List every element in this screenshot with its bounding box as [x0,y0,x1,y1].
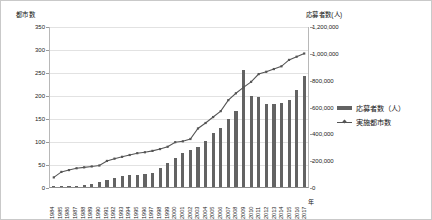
legend-label-line: 実施都市数 [356,117,391,127]
x-tick-label: 1999 [165,189,171,219]
bar-slot [217,27,225,187]
left-tick-label: 0 [1,185,45,191]
bar [174,158,177,187]
bar [257,97,260,187]
bar [265,104,268,187]
x-tick-label: 2006 [218,189,224,219]
x-tick-label: 2004 [203,189,209,219]
right-tick-mark [310,108,313,109]
right-tick-mark [310,134,313,135]
x-tick-label: 2005 [210,189,216,219]
bar [280,103,283,187]
bar-slot [225,27,233,187]
bar-slot [240,27,248,187]
bar [181,153,184,187]
bar-slot [232,27,240,187]
left-axis-title: 都市数 [16,10,35,19]
legend-item-bar: 応募者数（人） [337,103,405,113]
right-tick-label: 200,000 [312,158,372,164]
left-tick-label: 300 [1,47,45,53]
bar-slot [126,27,134,187]
bar-slot [111,27,119,187]
x-tick-slot: 2016 [294,189,302,219]
right-axis-title: 応募者数(人) [306,10,342,19]
x-tick-label: 2010 [249,189,255,219]
bar-slot [65,27,73,187]
left-tick-label: 200 [1,93,45,99]
right-tick-label: 1,000,000 [312,51,372,57]
x-tick-slot: 2003 [194,189,202,219]
bar-slot [88,27,96,187]
bar-series [50,27,308,187]
x-tick-slot: 2001 [179,189,187,219]
x-tick-slot: 1995 [133,189,141,219]
bar [204,141,207,187]
x-tick-label: 1988 [81,189,87,219]
x-tick-label: 2014 [279,189,285,219]
bar-slot [141,27,149,187]
right-tick-label: 400,000 [312,131,372,137]
left-tick-label: 50 [1,162,45,168]
legend-bar-swatch-icon [337,106,352,110]
x-tick-label: 1992 [111,189,117,219]
bar [121,176,124,187]
bar [105,180,108,187]
x-tick-label: 1984 [50,189,56,219]
x-tick-label: 2009 [241,189,247,219]
x-tick-slot: 2012 [263,189,271,219]
x-tick-label: 2000 [172,189,178,219]
bar [227,119,230,187]
x-tick-slot: 1991 [102,189,110,219]
bar [52,186,55,187]
x-tick-label: 1994 [126,189,132,219]
bar [113,178,116,187]
bar [60,186,63,187]
right-tick-mark [310,188,313,189]
x-tick-label: 1997 [149,189,155,219]
x-tick-label: 1993 [119,189,125,219]
x-tick-label: 2017 [302,189,308,219]
bar [242,70,245,187]
x-tick-slot: 2009 [240,189,248,219]
bar-slot [293,27,301,187]
bar [219,128,222,187]
bar [67,186,70,187]
bar-slot [156,27,164,187]
chart-legend: 応募者数（人） 実施都市数 [337,103,405,127]
legend-item-line: 実施都市数 [337,117,405,127]
bar-slot [247,27,255,187]
bar-slot [164,27,172,187]
x-tick-slot: 2011 [255,189,263,219]
right-tick-mark [310,81,313,82]
bar [90,184,93,187]
bar-slot [103,27,111,187]
bar [151,173,154,187]
x-tick-label: 1991 [104,189,110,219]
x-tick-slot: 2008 [232,189,240,219]
x-tick-slot: 1998 [156,189,164,219]
x-tick-slot: 2005 [209,189,217,219]
bar-slot [134,27,142,187]
x-tick-slot: 1994 [125,189,133,219]
bar-slot [209,27,217,187]
bar [272,104,275,187]
legend-label-bar: 応募者数（人） [356,103,405,113]
right-tick-label: 800,000 [312,78,372,84]
bar [295,90,298,187]
x-tick-label: 1996 [142,189,148,219]
x-tick-label: 2015 [287,189,293,219]
x-tick-slot: 1989 [87,189,95,219]
x-tick-slot: 2015 [286,189,294,219]
x-tick-label: 2011 [256,189,262,219]
left-tick-label: 250 [1,70,45,76]
x-tick-slot: 1987 [72,189,80,219]
x-tick-label: 2016 [295,189,301,219]
bar [196,147,199,187]
x-tick-slot: 1992 [110,189,118,219]
x-tick-label: 1998 [157,189,163,219]
bar [166,163,169,187]
left-tick-label: 100 [1,139,45,145]
bar-slot [172,27,180,187]
bar-slot [118,27,126,187]
x-tick-label: 1985 [58,189,64,219]
